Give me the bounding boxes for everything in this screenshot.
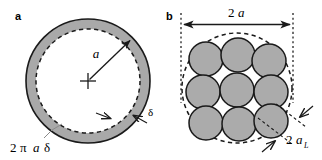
filament-circle [189,42,223,76]
filament-group [186,38,288,141]
filament-circle [189,106,223,140]
area-label-coefficient: 2 [10,140,17,155]
filament-label-coefficient: 2 [286,132,293,147]
area-label-pi: π [20,140,27,155]
filament-label-radius: a [296,132,303,147]
panel-a-thickness-label: δ [148,106,153,118]
figure-root: a δ 2 π a δ a [0,0,322,160]
filament-label-subscript: L [303,141,309,150]
area-label-delta: δ [44,140,50,155]
diameter-label-coefficient: 2 [228,5,235,20]
figure-svg: a δ 2 π a δ a [0,0,322,160]
filament-circle [220,73,254,107]
filament-circle [221,38,255,72]
filament-circle [252,44,286,78]
area-label-radius: a [33,140,40,155]
filament-circle [186,75,220,109]
panel-b-letter: b [166,10,173,22]
filament-circle [222,107,256,141]
diameter-label-radius: a [238,5,245,20]
panel-a-radius-label: a [93,46,100,61]
panel-a-letter: a [15,10,22,22]
